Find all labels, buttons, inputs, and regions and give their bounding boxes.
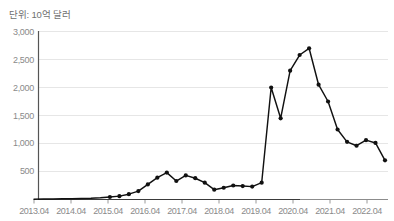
data-point-marker — [127, 192, 131, 196]
data-point-marker — [117, 194, 121, 198]
data-point-marker — [373, 141, 377, 145]
data-point-marker — [174, 179, 178, 183]
data-point-marker — [345, 140, 349, 144]
data-point-marker — [260, 181, 264, 185]
data-point-marker — [108, 195, 112, 199]
data-point-marker — [269, 85, 273, 89]
chart-container: 단위: 10억 달러 3,000 2,500 2,000 1,500 1,000… — [0, 0, 394, 221]
data-point-marker — [364, 138, 368, 142]
data-point-marker — [146, 182, 150, 186]
data-point-marker — [307, 46, 311, 50]
data-point-marker — [184, 173, 188, 177]
data-point-marker — [335, 127, 339, 131]
data-point-marker — [354, 144, 358, 148]
data-series-line — [34, 48, 385, 199]
data-point-marker — [298, 53, 302, 57]
data-point-marker — [250, 185, 254, 189]
data-point-marker — [383, 158, 387, 162]
data-point-marker — [155, 176, 159, 180]
chart-plot-svg — [0, 0, 394, 221]
data-point-marker — [203, 181, 207, 185]
data-point-marker — [288, 69, 292, 73]
data-point-marker — [165, 171, 169, 175]
x-axis-ticks-group — [34, 200, 367, 204]
data-point-marker — [212, 188, 216, 192]
data-point-marker — [279, 116, 283, 120]
data-point-marker — [326, 99, 330, 103]
data-point-marker — [222, 186, 226, 190]
data-point-marker — [231, 183, 235, 187]
data-point-marker — [241, 184, 245, 188]
data-point-marker — [136, 189, 140, 193]
data-point-marker — [193, 176, 197, 180]
data-series-markers — [108, 46, 387, 199]
data-point-marker — [316, 83, 320, 87]
gridlines-group — [38, 32, 388, 172]
